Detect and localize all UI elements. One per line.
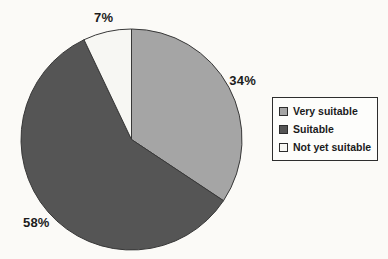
- legend-label-not-yet-suitable: Not yet suitable: [293, 141, 371, 153]
- legend-swatch-suitable-icon: [279, 125, 288, 134]
- slice-label-very-suitable: 34%: [229, 73, 256, 88]
- pie-chart-figure: 34% 58% 7% Very suitable Suitable Not ye…: [0, 0, 388, 259]
- chart-legend: Very suitable Suitable Not yet suitable: [272, 97, 378, 161]
- legend-item-not-yet-suitable: Not yet suitable: [279, 141, 371, 153]
- slice-label-not-yet-suitable: 7%: [94, 9, 113, 24]
- legend-label-very-suitable: Very suitable: [293, 105, 358, 117]
- slice-label-suitable: 58%: [23, 215, 50, 230]
- legend-label-suitable: Suitable: [293, 123, 334, 135]
- legend-item-very-suitable: Very suitable: [279, 105, 371, 117]
- legend-swatch-very-suitable-icon: [279, 107, 288, 116]
- legend-swatch-not-yet-suitable-icon: [279, 143, 288, 152]
- legend-item-suitable: Suitable: [279, 123, 371, 135]
